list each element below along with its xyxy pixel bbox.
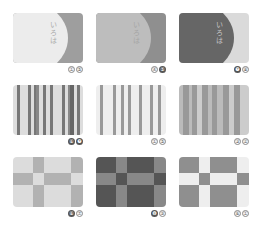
swatch-label: ⑥ ⑦ — [68, 210, 83, 217]
swatch-grid: いろは ① ⑤ いろは ④ ⑤ いろは ❼ ⑧ ⑥ ❼ — [13, 13, 249, 207]
check-block — [33, 185, 44, 207]
swatch-8[interactable]: ❽ ⑨ — [96, 157, 166, 207]
check-block — [44, 185, 71, 207]
label-number: ③ — [234, 138, 241, 145]
check-block — [237, 157, 249, 173]
card-text: いろは — [131, 21, 141, 45]
card-2: いろは — [96, 13, 166, 63]
check-block — [179, 173, 199, 185]
label-number: ① — [68, 66, 75, 73]
check-block — [116, 185, 127, 207]
check-block — [71, 157, 83, 173]
card-1: いろは — [13, 13, 83, 63]
card-6 — [179, 85, 249, 135]
check-pattern — [13, 157, 83, 207]
card-8 — [96, 157, 166, 207]
label-number: ⑤ — [159, 66, 166, 73]
check-block — [237, 185, 249, 207]
card-bulge — [179, 13, 234, 63]
stripe — [142, 85, 150, 135]
check-block — [71, 173, 83, 185]
stripe — [161, 85, 166, 135]
check-block — [13, 185, 33, 207]
check-block — [44, 173, 71, 185]
stripe-pattern — [13, 85, 83, 135]
label-number: ⑥ — [68, 210, 75, 217]
check-block — [199, 185, 210, 207]
check-block — [154, 157, 166, 173]
check-block — [33, 157, 44, 173]
card-bulge — [13, 13, 68, 63]
label-number: ⑦ — [76, 210, 83, 217]
check-block — [127, 185, 154, 207]
swatch-5[interactable]: ① ⑤ — [96, 85, 166, 135]
label-number: ⑨ — [159, 210, 166, 217]
card-text: いろは — [48, 21, 58, 45]
check-pattern — [179, 157, 249, 207]
check-block — [71, 185, 83, 207]
swatch-2[interactable]: いろは ④ ⑤ — [96, 13, 166, 63]
stripe — [131, 85, 139, 135]
check-block — [154, 185, 166, 207]
check-block — [13, 173, 33, 185]
stripe — [240, 85, 249, 135]
check-block — [210, 173, 237, 185]
check-block — [116, 157, 127, 173]
swatch-9[interactable]: ⑥ ① — [179, 157, 249, 207]
swatch-1[interactable]: いろは ① ⑤ — [13, 13, 83, 63]
check-pattern — [96, 157, 166, 207]
stripe — [20, 85, 29, 135]
check-block — [33, 173, 44, 185]
check-block — [210, 157, 237, 173]
label-number: ❼ — [234, 66, 241, 73]
stripe — [80, 85, 83, 135]
label-number: ⑤ — [76, 66, 83, 73]
swatch-4[interactable]: ⑥ ❼ — [13, 85, 83, 135]
swatch-6[interactable]: ③ ② — [179, 85, 249, 135]
label-number: ② — [242, 138, 249, 145]
stripe — [103, 85, 113, 135]
label-number: ① — [242, 210, 249, 217]
swatch-7[interactable]: ⑥ ⑦ — [13, 157, 83, 207]
label-number: ❽ — [151, 210, 158, 217]
card-9 — [179, 157, 249, 207]
label-number: ⑧ — [242, 66, 249, 73]
card-3: いろは — [179, 13, 249, 63]
label-number: ⑥ — [68, 138, 75, 145]
card-bulge — [96, 13, 151, 63]
check-block — [127, 173, 154, 185]
swatch-label: ① ⑤ — [68, 66, 83, 73]
stripe — [53, 85, 62, 135]
check-block — [210, 185, 237, 207]
swatch-3[interactable]: いろは ❼ ⑧ — [179, 13, 249, 63]
check-block — [96, 157, 116, 173]
stripe-pattern — [96, 85, 166, 135]
stripe-pattern — [179, 85, 249, 135]
swatch-label: ③ ② — [234, 138, 249, 145]
check-block — [116, 173, 127, 185]
label-number: ⑤ — [159, 138, 166, 145]
label-number: ⑥ — [234, 210, 241, 217]
label-number: ④ — [151, 66, 158, 73]
check-block — [96, 185, 116, 207]
check-block — [179, 185, 199, 207]
swatch-label: ❽ ⑨ — [151, 210, 166, 217]
check-block — [199, 157, 210, 173]
check-block — [127, 157, 154, 173]
check-block — [44, 157, 71, 173]
check-block — [154, 173, 166, 185]
swatch-label: ⑥ ❼ — [68, 138, 83, 145]
swatch-label: ④ ⑤ — [151, 66, 166, 73]
check-block — [13, 157, 33, 173]
check-block — [199, 173, 210, 185]
swatch-label: ⑥ ① — [234, 210, 249, 217]
check-block — [237, 173, 249, 185]
label-number: ❼ — [76, 138, 83, 145]
swatch-label: ① ⑤ — [151, 138, 166, 145]
label-number: ① — [151, 138, 158, 145]
swatch-label: ❼ ⑧ — [234, 66, 249, 73]
check-block — [96, 173, 116, 185]
card-text: いろは — [214, 21, 224, 45]
card-5 — [96, 85, 166, 135]
check-block — [179, 157, 199, 173]
